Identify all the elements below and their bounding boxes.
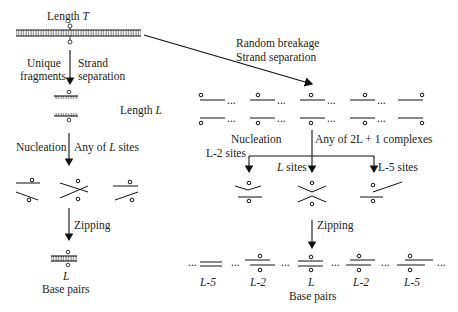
nucleation-complex-right-2: [298, 181, 326, 206]
single-strand-top: [54, 90, 78, 99]
nucleation-complex-left-2: [60, 179, 88, 201]
label-random-breakage: Random breakage: [236, 37, 319, 50]
label-length-l: Length L: [120, 104, 162, 117]
label-result-l2-a: L-2: [250, 276, 266, 289]
dots-row1-a: ...: [227, 94, 236, 107]
nucleation-complex-right-1: [235, 181, 262, 203]
dots-result-4: ...: [381, 256, 390, 269]
dots-result-3: ...: [331, 256, 340, 269]
dots-row2-b: ...: [277, 112, 286, 125]
dots-row2-d: ...: [377, 112, 386, 125]
label-l2-sites: L-2 sites: [206, 147, 246, 160]
label-separation: separation: [78, 70, 125, 83]
dots-row1-c: ...: [327, 94, 336, 107]
label-result-l: L: [308, 276, 314, 289]
label-length-t: Length T: [47, 10, 89, 23]
nucleation-complex-left-3: [113, 180, 138, 202]
label-zipping-left: Zipping: [74, 219, 110, 232]
label-result-l2-b: L-2: [353, 276, 369, 289]
branch-arrows: [249, 130, 374, 248]
nucleation-complex-left-1: [16, 178, 40, 202]
label-nucleation-left: Nucleation: [16, 141, 66, 154]
label-result-l5-a: L-5: [200, 276, 216, 289]
label-result-l5-b: L-5: [404, 276, 420, 289]
dots-row2-a: ...: [227, 112, 236, 125]
label-unique: Unique: [27, 57, 61, 70]
label-base-pairs-right: Base pairs: [289, 290, 337, 303]
dots-row1-b: ...: [277, 94, 286, 107]
label-any-2l1-complexes: Any of 2L + 1 complexes: [315, 133, 433, 146]
label-strand-separation-right: Strand separation: [236, 51, 316, 64]
label-any-l-sites: Any of L sites: [74, 141, 139, 154]
single-strand-bottom: [54, 113, 78, 122]
dots-row2-c: ...: [327, 112, 336, 125]
label-fragments: fragments: [20, 70, 66, 83]
label-base-pairs-left: Base pairs: [42, 283, 90, 296]
dots-result-5: ...: [437, 256, 446, 269]
nucleation-complex-right-3: [360, 182, 402, 203]
label-strand: Strand: [78, 57, 108, 70]
dots-result-2: ...: [281, 256, 290, 269]
duplex-result-left: [51, 250, 77, 267]
label-result-l: L: [63, 270, 69, 283]
long-duplex: [16, 24, 141, 44]
dots-result-0: ...: [188, 256, 197, 269]
label-l5-sites: L-5 sites: [378, 161, 418, 174]
dots-result-1: ...: [231, 256, 240, 269]
label-zipping-right: Zipping: [317, 219, 353, 232]
label-l-sites: L sites: [277, 161, 307, 174]
dots-row1-d: ...: [377, 94, 386, 107]
label-nucleation-right: Nucleation: [231, 133, 281, 146]
